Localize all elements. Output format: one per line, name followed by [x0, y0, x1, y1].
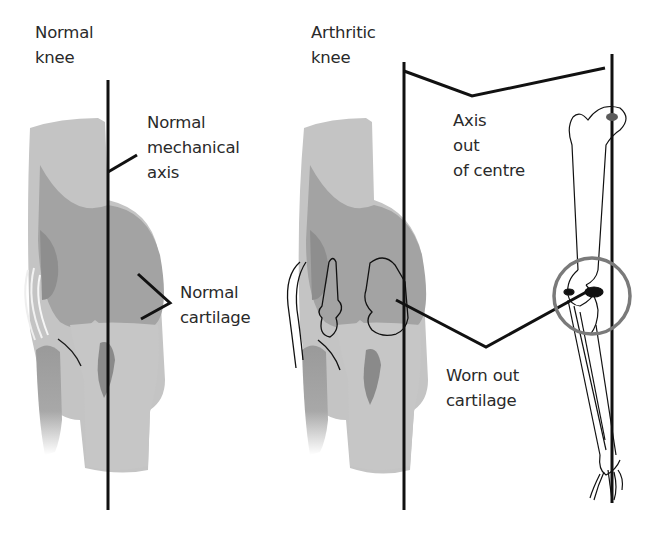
leg-skeleton-illustration — [564, 107, 626, 501]
worn-out-cartilage-callout: Worn out cartilage — [446, 363, 519, 413]
heading-line: Arthritic — [311, 20, 376, 45]
arthritic-knee-illustration — [288, 54, 613, 510]
callout-line: axis — [147, 160, 240, 185]
callout-line: of centre — [453, 158, 525, 183]
callout-line: mechanical — [147, 135, 240, 160]
callout-line: Normal — [180, 280, 251, 305]
heading-line: knee — [311, 45, 376, 70]
normal-knee-heading: Normal knee — [35, 20, 94, 70]
heading-line: Normal — [35, 20, 94, 45]
normal-axis-callout: Normal mechanical axis — [147, 110, 240, 185]
callout-line: Normal — [147, 110, 240, 135]
callout-line: cartilage — [180, 305, 251, 330]
knee-diagram-artwork — [0, 0, 656, 535]
heading-line: knee — [35, 45, 94, 70]
arthritic-knee-heading: Arthritic knee — [311, 20, 376, 70]
callout-line: cartilage — [446, 388, 519, 413]
axis-out-of-centre-callout: Axis out of centre — [453, 108, 525, 183]
callout-line: Worn out — [446, 363, 519, 388]
callout-line: out — [453, 133, 525, 158]
normal-cartilage-callout: Normal cartilage — [180, 280, 251, 330]
callout-line: Axis — [453, 108, 525, 133]
